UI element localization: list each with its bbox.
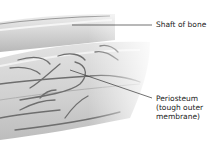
periosteum-label: Periosteum (tough outer membrane)	[156, 94, 203, 121]
periosteum-label-line3: membrane)	[156, 112, 203, 121]
periosteum-label-line2: (tough outer	[156, 103, 203, 112]
shaft-label: Shaft of bone	[156, 20, 206, 29]
periosteum-label-line1: Periosteum	[156, 94, 203, 103]
